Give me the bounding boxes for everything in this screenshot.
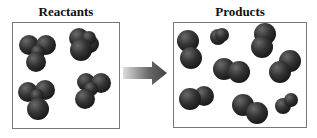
product-molecule — [210, 28, 229, 45]
product-molecule — [177, 30, 202, 69]
reaction-arrow — [123, 61, 167, 85]
product-molecule — [275, 93, 298, 114]
product-molecule — [269, 50, 301, 83]
product-molecule — [251, 23, 276, 58]
reactant-molecule — [18, 80, 55, 120]
reactant-molecule — [69, 28, 99, 61]
reactant-molecule — [75, 73, 111, 109]
molecule-illustration — [0, 0, 317, 138]
product-molecule — [179, 86, 214, 110]
product-molecule — [232, 94, 268, 124]
product-molecule — [213, 58, 250, 83]
reactant-molecule — [19, 35, 56, 72]
